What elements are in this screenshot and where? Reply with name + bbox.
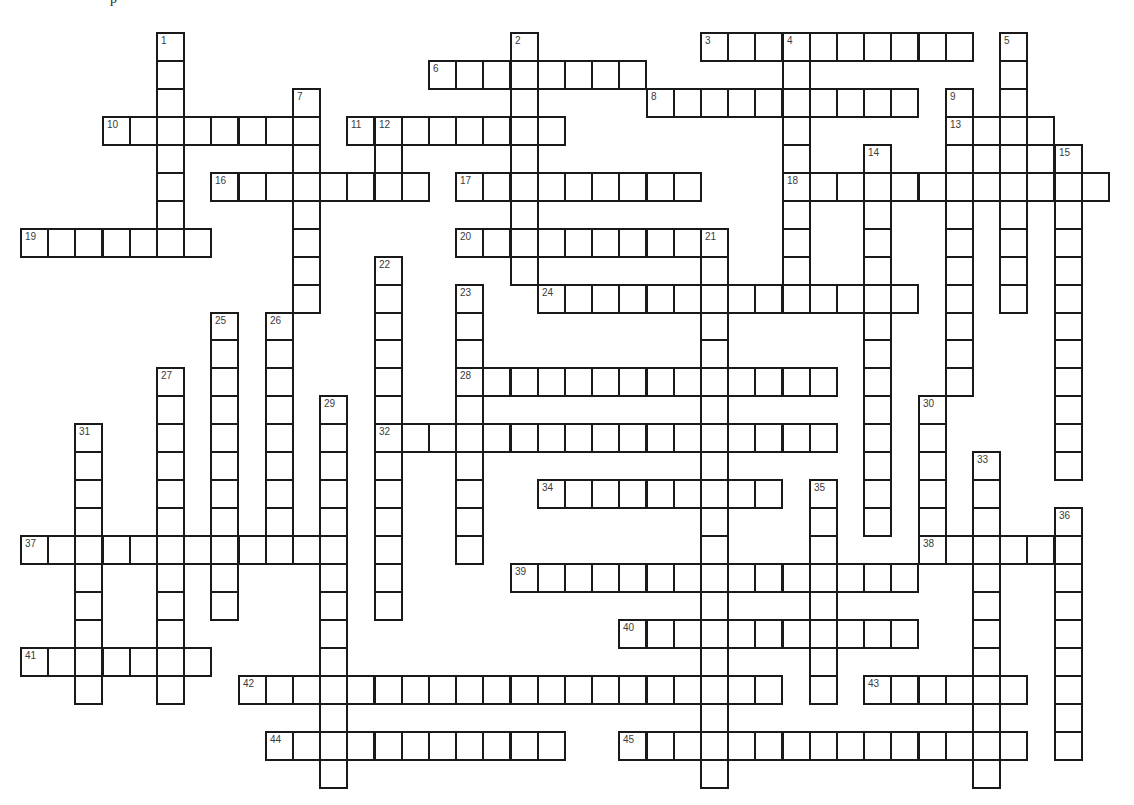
crossword-cell[interactable] (455, 535, 484, 565)
crossword-cell[interactable] (374, 479, 403, 509)
crossword-cell[interactable] (890, 619, 919, 649)
crossword-cell[interactable] (591, 172, 620, 202)
crossword-cell[interactable] (74, 675, 103, 705)
crossword-cell[interactable] (537, 731, 566, 761)
crossword-cell[interactable] (319, 647, 348, 677)
crossword-cell[interactable] (319, 591, 348, 621)
crossword-cell[interactable] (319, 759, 348, 789)
crossword-cell[interactable] (482, 731, 511, 761)
crossword-cell[interactable] (673, 88, 702, 118)
crossword-cell[interactable] (156, 647, 185, 677)
crossword-cell[interactable] (890, 731, 919, 761)
crossword-cell[interactable] (700, 759, 729, 789)
crossword-cell[interactable] (1026, 144, 1055, 174)
crossword-cell[interactable] (863, 88, 892, 118)
crossword-cell[interactable] (754, 731, 783, 761)
crossword-cell[interactable] (183, 647, 212, 677)
crossword-cell[interactable] (156, 395, 185, 425)
crossword-cell-34[interactable]: 34 (537, 479, 566, 509)
crossword-cell[interactable] (210, 367, 239, 397)
crossword-cell[interactable] (945, 228, 974, 258)
crossword-cell[interactable] (156, 479, 185, 509)
crossword-cell-12[interactable]: 12 (374, 116, 403, 146)
crossword-cell[interactable] (537, 228, 566, 258)
crossword-cell[interactable] (1054, 591, 1083, 621)
crossword-cell[interactable] (673, 619, 702, 649)
crossword-cell[interactable] (564, 60, 593, 90)
crossword-cell[interactable] (346, 675, 375, 705)
crossword-cell[interactable] (646, 284, 675, 314)
crossword-cell[interactable] (727, 563, 756, 593)
crossword-cell[interactable] (646, 619, 675, 649)
crossword-cell[interactable] (700, 451, 729, 481)
crossword-cell[interactable] (945, 256, 974, 286)
crossword-cell-1[interactable]: 1 (156, 32, 185, 62)
crossword-cell[interactable] (700, 367, 729, 397)
crossword-cell[interactable] (210, 116, 239, 146)
crossword-cell[interactable] (238, 116, 267, 146)
crossword-cell[interactable] (700, 675, 729, 705)
crossword-cell[interactable] (428, 731, 457, 761)
crossword-cell[interactable] (618, 284, 647, 314)
crossword-cell[interactable] (265, 535, 294, 565)
crossword-cell[interactable] (510, 172, 539, 202)
crossword-cell[interactable] (455, 339, 484, 369)
crossword-cell-42[interactable]: 42 (238, 675, 267, 705)
crossword-cell[interactable] (156, 88, 185, 118)
crossword-cell[interactable] (700, 339, 729, 369)
crossword-cell[interactable] (374, 395, 403, 425)
crossword-cell[interactable] (129, 116, 158, 146)
crossword-cell[interactable] (238, 172, 267, 202)
crossword-cell[interactable] (999, 144, 1028, 174)
crossword-cell[interactable] (782, 88, 811, 118)
crossword-cell[interactable] (210, 507, 239, 537)
crossword-cell[interactable] (727, 675, 756, 705)
crossword-cell[interactable] (156, 116, 185, 146)
crossword-cell[interactable] (809, 675, 838, 705)
crossword-cell[interactable] (1054, 339, 1083, 369)
crossword-cell[interactable] (809, 88, 838, 118)
crossword-cell[interactable] (564, 675, 593, 705)
crossword-cell[interactable] (74, 451, 103, 481)
crossword-cell[interactable] (836, 619, 865, 649)
crossword-cell[interactable] (945, 200, 974, 230)
crossword-cell[interactable] (374, 731, 403, 761)
crossword-cell[interactable] (809, 619, 838, 649)
crossword-cell[interactable] (292, 144, 321, 174)
crossword-cell[interactable] (455, 60, 484, 90)
crossword-cell[interactable] (183, 228, 212, 258)
crossword-cell[interactable] (918, 423, 947, 453)
crossword-cell[interactable] (156, 535, 185, 565)
crossword-cell[interactable] (700, 647, 729, 677)
crossword-cell[interactable] (455, 312, 484, 342)
crossword-cell[interactable] (102, 535, 131, 565)
crossword-cell[interactable] (210, 395, 239, 425)
crossword-cell[interactable] (74, 507, 103, 537)
crossword-cell[interactable] (455, 507, 484, 537)
crossword-cell[interactable] (455, 675, 484, 705)
crossword-cell[interactable] (972, 703, 1001, 733)
crossword-cell[interactable] (591, 479, 620, 509)
crossword-cell[interactable] (863, 284, 892, 314)
crossword-cell-39[interactable]: 39 (510, 563, 539, 593)
crossword-cell[interactable] (727, 479, 756, 509)
crossword-cell[interactable] (74, 591, 103, 621)
crossword-cell[interactable] (999, 284, 1028, 314)
crossword-cell[interactable] (210, 535, 239, 565)
crossword-cell[interactable] (782, 367, 811, 397)
crossword-cell[interactable] (1054, 256, 1083, 286)
crossword-cell[interactable] (972, 172, 1001, 202)
crossword-cell[interactable] (1054, 367, 1083, 397)
crossword-cell[interactable] (1026, 172, 1055, 202)
crossword-cell[interactable] (47, 535, 76, 565)
crossword-cell[interactable] (673, 563, 702, 593)
crossword-cell[interactable] (482, 172, 511, 202)
crossword-cell[interactable] (999, 228, 1028, 258)
crossword-cell-28[interactable]: 28 (455, 367, 484, 397)
crossword-cell-21[interactable]: 21 (700, 228, 729, 258)
crossword-cell[interactable] (782, 284, 811, 314)
crossword-cell[interactable] (972, 479, 1001, 509)
crossword-cell[interactable] (319, 451, 348, 481)
crossword-cell[interactable] (972, 647, 1001, 677)
crossword-cell[interactable] (918, 32, 947, 62)
